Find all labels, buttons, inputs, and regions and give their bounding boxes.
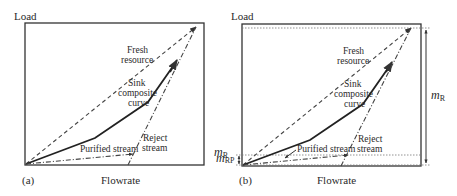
x-axis-label: Flowrate xyxy=(317,174,356,186)
reject-stream-label: Reject xyxy=(358,134,383,144)
m-r-label: mR xyxy=(431,88,446,103)
panel-label: (b) xyxy=(239,174,252,187)
sink-curve-arrow xyxy=(170,60,177,72)
panel-a: Load Fresh resource Sink composite curve… xyxy=(14,10,229,187)
fresh-resource-label-2: resource xyxy=(337,56,369,66)
y-axis-label: Load xyxy=(231,10,254,22)
sink-curve-label-2: composite xyxy=(334,89,373,99)
purified-stream-label: Purified stream xyxy=(80,144,139,154)
sink-curve-label-3: curve xyxy=(344,99,365,109)
purified-stream-line xyxy=(26,154,133,164)
sink-curve-label: Sink xyxy=(344,79,362,89)
sink-curve-label: Sink xyxy=(128,78,146,88)
y-axis-label: Load xyxy=(14,10,37,22)
reject-stream-label-2: stream xyxy=(142,143,168,153)
figure-canvas: Load Fresh resource Sink composite curve… xyxy=(0,0,457,196)
fresh-resource-label-2: resource xyxy=(121,55,153,65)
purified-pointer-arrow xyxy=(285,150,296,158)
panel-label: (a) xyxy=(22,174,35,187)
panel-b: Load mR mRP Fresh resource Sink composit… xyxy=(216,10,446,187)
fresh-resource-label: Fresh xyxy=(127,45,148,55)
purified-stream-label: Purified stream xyxy=(297,144,356,154)
sink-curve-label-2: composite xyxy=(118,88,157,98)
reject-stream-label-2: stream xyxy=(357,144,383,154)
reject-stream-label: Reject xyxy=(143,133,168,143)
fresh-resource-label: Fresh xyxy=(343,46,364,56)
sink-curve-label-3: curve xyxy=(128,98,149,108)
x-axis-label: Flowrate xyxy=(101,174,140,186)
